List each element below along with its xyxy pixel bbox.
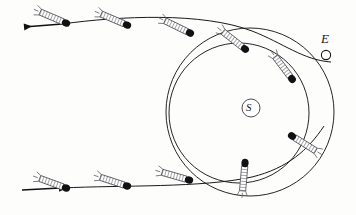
- earth-circle-marker: [321, 50, 330, 59]
- sun-label: S: [246, 102, 252, 113]
- spacecraft-marker: [267, 48, 299, 86]
- trajectory-diagram-svg: [0, 0, 356, 215]
- figure-canvas: E S: [0, 0, 356, 215]
- earth-label: E: [321, 32, 329, 45]
- trajectory-group: [62, 17, 331, 188]
- outbound-trajectory-path: [62, 17, 331, 62]
- inbound-arrow: [22, 188, 60, 190]
- spacecraft-marker: [237, 158, 251, 198]
- outbound-arrow: [24, 24, 62, 27]
- spacecraft-marker: [93, 7, 133, 32]
- arrow-group: [22, 24, 62, 190]
- outbound-marker-group: [32, 5, 299, 86]
- spacecraft-marker: [92, 170, 132, 192]
- inbound-marker-group: [31, 129, 324, 198]
- spacecraft-marker: [31, 171, 71, 194]
